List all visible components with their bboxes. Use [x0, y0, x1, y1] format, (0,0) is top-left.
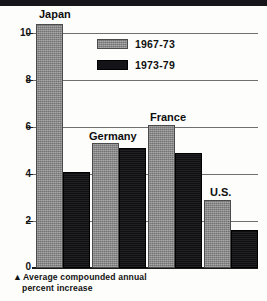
bar-france-1967-73 — [148, 125, 175, 268]
group-label-japan: Japan — [39, 8, 71, 20]
chart-figure: 10 8 6 4 2 0 Japan Germany France U.S. 1… — [0, 0, 267, 301]
group-label-france: France — [150, 111, 186, 123]
bar-japan-1967-73 — [36, 24, 63, 268]
legend-label-1973-79: 1973-79 — [135, 59, 175, 71]
legend-item-1967-73: 1967-73 — [97, 36, 175, 51]
chart-footnote: ▲Average compounded annual percent incre… — [13, 272, 243, 294]
y-axis-label-0: 0 — [7, 262, 31, 272]
y-axis-label-2: 2 — [7, 216, 31, 226]
footnote-line-1: Average compounded annual — [23, 272, 147, 282]
bar-germany-1973-79 — [119, 148, 146, 268]
y-axis-label-10: 10 — [7, 28, 31, 38]
legend-item-1973-79: 1973-79 — [97, 57, 175, 72]
y-axis-label-8: 8 — [7, 75, 31, 85]
plot-area: 10 8 6 4 2 0 Japan Germany France U.S. 1… — [0, 0, 267, 301]
footnote-line-2: percent increase — [22, 283, 243, 294]
legend-swatch-black-icon — [97, 60, 128, 70]
bar-us-1973-79 — [231, 230, 258, 268]
group-label-us: U.S. — [210, 186, 231, 198]
legend-swatch-light-gray-icon — [97, 39, 128, 49]
group-label-germany: Germany — [89, 130, 137, 142]
bar-us-1967-73 — [204, 200, 231, 268]
gridline-10 — [32, 33, 258, 34]
chart-legend: 1967-73 1973-79 — [97, 36, 175, 78]
y-axis-label-4: 4 — [7, 169, 31, 179]
bar-france-1973-79 — [175, 153, 202, 268]
bar-germany-1967-73 — [92, 143, 119, 268]
triangle-marker-icon: ▲ — [13, 272, 22, 282]
gridline-8 — [32, 80, 258, 81]
bar-japan-1973-79 — [63, 172, 90, 268]
gridline-6 — [32, 127, 258, 128]
y-axis-label-6: 6 — [7, 122, 31, 132]
legend-label-1967-73: 1967-73 — [135, 38, 175, 50]
